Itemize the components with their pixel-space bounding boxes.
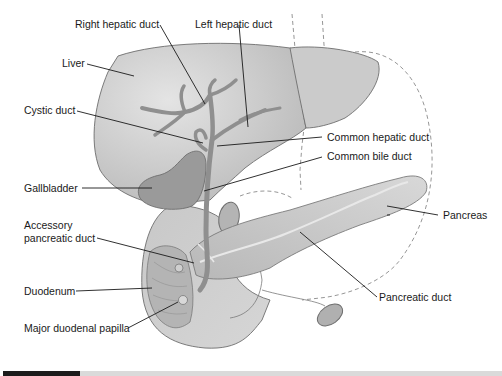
label-common-bile-duct: Common bile duct — [327, 150, 412, 162]
label-accessory-pancreatic-duct-line1: Accessory — [24, 219, 72, 231]
caption-bar-light — [80, 371, 502, 376]
label-major-duodenal-papilla: Major duodenal papilla — [24, 322, 130, 334]
label-right-hepatic-duct: Right hepatic duct — [75, 18, 159, 30]
label-pancreas: Pancreas — [443, 209, 487, 221]
major-duodenal-papilla — [179, 296, 188, 305]
label-accessory-pancreatic-duct-line2: pancreatic duct — [24, 232, 95, 244]
label-cystic-duct: Cystic duct — [24, 104, 75, 116]
label-gallbladder: Gallbladder — [24, 182, 78, 194]
caption-bar-dark — [3, 371, 80, 376]
label-common-hepatic-duct: Common hepatic duct — [327, 131, 429, 143]
label-left-hepatic-duct: Left hepatic duct — [195, 18, 272, 30]
label-liver: Liver — [62, 57, 85, 69]
label-duodenum: Duodenum — [24, 285, 75, 297]
accessory-papilla — [175, 264, 183, 272]
label-pancreatic-duct: Pancreatic duct — [379, 291, 451, 303]
